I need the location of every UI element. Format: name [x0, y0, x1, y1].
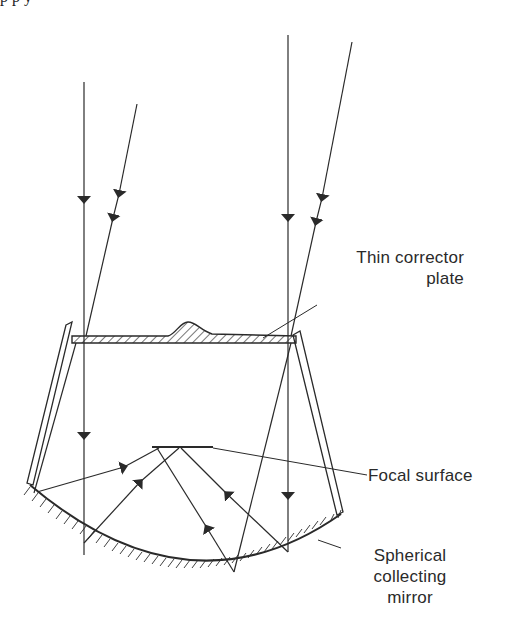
- incoming-rays: [84, 35, 352, 555]
- label-mirror-line1: Spherical: [350, 545, 470, 566]
- right-tube-wall: [293, 331, 343, 515]
- spherical-mirror: [24, 485, 341, 568]
- left-tube-wall: [27, 322, 72, 485]
- label-spherical-mirror: Spherical collecting mirror: [350, 545, 470, 608]
- label-mirror-line3: mirror: [350, 587, 470, 608]
- label-corrector-plate: Thin corrector plate: [356, 247, 464, 289]
- label-corrector-line1: Thin corrector: [356, 247, 464, 268]
- corrector-plate: [72, 322, 296, 343]
- label-focal-surface: Focal surface: [368, 465, 473, 486]
- internal-rays: [34, 343, 291, 572]
- label-mirror-line2: collecting: [350, 566, 470, 587]
- label-corrector-line2: plate: [356, 268, 464, 289]
